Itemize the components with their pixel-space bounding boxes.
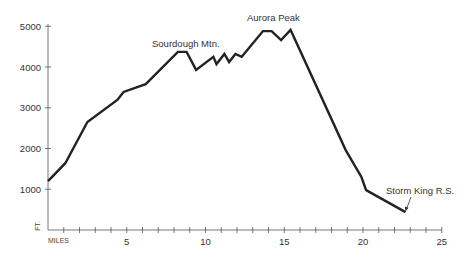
x-tick-label: 25 (436, 236, 447, 247)
y-tick-label: 4000 (20, 62, 41, 73)
y-ticks: 10002000300040005000 (20, 21, 51, 195)
y-axis-label: FT. (34, 221, 41, 231)
y-tick-label: 2000 (20, 143, 41, 154)
x-tick-label: 10 (200, 236, 211, 247)
elevation-line (48, 30, 406, 212)
x-tick-label: 5 (124, 236, 129, 247)
y-tick-label: 5000 (20, 21, 41, 32)
y-tick-label: 3000 (20, 102, 41, 113)
y-tick-label: 1000 (20, 184, 41, 195)
x-tick-label: 15 (279, 236, 290, 247)
elevation-chart: 10002000300040005000 510152025 FT. MILES… (0, 0, 469, 267)
x-tick-label: 20 (358, 236, 369, 247)
annotation-aurora-peak: Aurora Peak (247, 12, 300, 23)
arrow-icon (405, 197, 411, 212)
annotation-storm-king-rs: Storm King R.S. (386, 185, 454, 196)
annotation-sourdough-mtn: Sourdough Mtn. (152, 38, 220, 49)
x-axis-label: MILES (48, 237, 69, 244)
